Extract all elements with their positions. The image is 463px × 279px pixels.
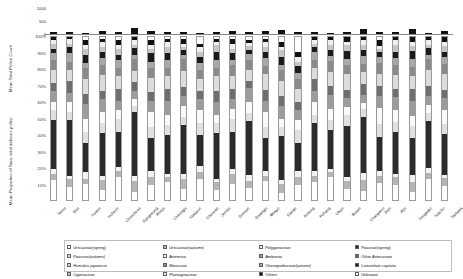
taxa-segment: [165, 135, 170, 174]
legend-label: Humulus japonicus: [73, 263, 107, 268]
taxa-proportion-bar: [409, 36, 416, 201]
taxa-segment: [116, 68, 121, 76]
legend-item: Lanceolate capitata: [355, 261, 449, 270]
taxa-segment: [344, 181, 349, 189]
taxa-proportion-bar: [164, 36, 171, 201]
taxa-segment: [214, 123, 219, 133]
taxa-proportion-bar: [213, 36, 220, 201]
taxa-segment: [116, 177, 121, 200]
taxa-segment: [361, 95, 366, 103]
taxa-segment: [393, 97, 398, 110]
taxa-segment: [312, 115, 317, 123]
legend-label: Moraceae: [169, 263, 187, 268]
taxa-segment: [377, 74, 382, 86]
taxa-segment: [197, 135, 202, 166]
panel-mean-total-pollen-count: [45, 8, 453, 34]
taxa-proportion-bar: [147, 36, 154, 201]
taxa-segment: [263, 181, 268, 200]
taxa-segment: [426, 59, 431, 70]
taxa-segment: [344, 90, 349, 98]
taxa-segment: [393, 110, 398, 121]
taxa-segment: [393, 185, 398, 200]
legend-swatch-icon: [163, 245, 167, 249]
taxa-proportion-bar: [294, 36, 301, 201]
taxa-segment: [116, 119, 121, 132]
taxa-segment: [410, 126, 415, 138]
taxa-segment: [295, 37, 300, 52]
taxa-segment: [410, 192, 415, 200]
taxa-segment: [51, 120, 56, 169]
legend-swatch-icon: [355, 245, 359, 249]
taxa-segment: [181, 117, 186, 125]
taxa-segment: [132, 71, 137, 82]
taxa-segment: [312, 102, 317, 115]
panel-mean-proportion-taxa: [45, 36, 453, 201]
x-tick-label: Andong: [302, 206, 315, 219]
taxa-segment: [51, 60, 56, 70]
taxa-segment: [246, 188, 251, 200]
legend-item: Others: [259, 270, 353, 279]
x-tick-label: Ulsan: [334, 206, 345, 217]
taxa-proportion-bar: [50, 36, 57, 201]
legend-label: Urticaceae(autumn): [169, 245, 204, 250]
taxa-segment: [230, 109, 235, 119]
taxa-segment: [51, 102, 56, 110]
taxa-segment: [295, 102, 300, 110]
taxa-proportion-bar: [343, 36, 350, 201]
taxa-segment: [100, 133, 105, 175]
taxa-segment: [116, 132, 121, 168]
taxa-segment: [426, 105, 431, 113]
taxa-segment: [263, 138, 268, 172]
taxa-segment: [279, 184, 284, 194]
x-tick-label: Guri: [72, 206, 81, 215]
taxa-proportion-bar: [327, 36, 334, 201]
taxa-segment: [100, 75, 105, 91]
taxa-segment: [181, 71, 186, 87]
taxa-segment: [328, 130, 333, 169]
taxa-segment: [410, 138, 415, 175]
taxa-segment: [442, 64, 447, 74]
taxa-segment: [197, 179, 202, 200]
taxa-proportion-bar: [131, 36, 138, 201]
taxa-segment: [393, 132, 398, 174]
taxa-segment: [312, 68, 317, 79]
taxa-proportion-bar: [311, 36, 318, 201]
legend-swatch-icon: [259, 272, 263, 276]
legend-item: Ambrosia: [259, 252, 353, 261]
taxa-segment: [116, 89, 121, 100]
taxa-segment: [410, 67, 415, 75]
x-tick-label: Taebaek: [449, 206, 463, 220]
taxa-segment: [263, 58, 268, 66]
taxa-segment: [263, 74, 268, 90]
taxa-segment: [132, 192, 137, 200]
taxa-segment: [279, 57, 284, 65]
taxa-segment: [51, 110, 56, 120]
legend-item: Plantaginaceae: [163, 270, 257, 279]
taxa-segment: [361, 109, 366, 117]
taxa-segment: [344, 126, 349, 177]
x-tick-label: Seogwipo: [417, 206, 433, 222]
taxa-segment: [377, 176, 382, 183]
x-tick-label: Seoul: [56, 206, 67, 217]
legend-label: Other Asteraceae: [361, 254, 392, 259]
taxa-segment: [148, 92, 153, 100]
taxa-segment: [230, 119, 235, 132]
taxa-segment: [442, 110, 447, 124]
x-tick-label: Pohang: [318, 206, 331, 219]
taxa-segment: [197, 91, 202, 99]
taxa-segment: [328, 72, 333, 86]
taxa-segment: [83, 119, 88, 132]
taxa-segment: [393, 122, 398, 132]
taxa-segment: [181, 106, 186, 117]
taxa-segment: [279, 106, 284, 119]
taxa-segment: [295, 130, 300, 143]
taxa-segment: [197, 123, 202, 134]
taxa-segment: [132, 59, 137, 70]
legend-swatch-icon: [67, 263, 71, 267]
taxa-segment: [393, 89, 398, 97]
taxa-segment: [442, 74, 447, 89]
legend-item: Other Asteraceae: [355, 252, 449, 261]
y-axis-ticks-proportion: 10%20%30%40%50%60%70%80%90%100%: [26, 36, 46, 201]
taxa-segment: [393, 65, 398, 75]
taxa-proportion-bar: [66, 36, 73, 201]
